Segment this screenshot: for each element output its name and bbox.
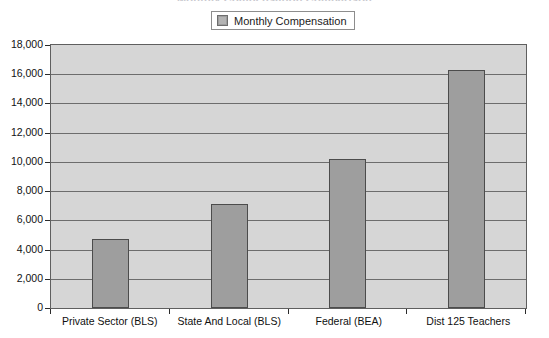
x-tick-mark <box>169 309 170 314</box>
y-tick-mark <box>45 45 50 46</box>
x-axis-label-1: State And Local (BLS) <box>170 315 290 327</box>
y-tick-label: 8,000 <box>17 184 43 196</box>
bar-state-and-local-bls[interactable] <box>211 204 248 308</box>
y-tick: 18,000 <box>0 45 50 46</box>
x-axis-ticks <box>50 309 528 314</box>
y-tick: 16,000 <box>0 74 50 75</box>
bar-slot <box>51 45 170 308</box>
legend-swatch-icon <box>217 15 228 26</box>
y-tick-label: 10,000 <box>11 155 43 167</box>
bar-slot <box>289 45 408 308</box>
y-tick-label: 2,000 <box>17 272 43 284</box>
bar-private-sector-bls[interactable] <box>92 239 129 308</box>
bar-slot <box>170 45 289 308</box>
chart-legend: Monthly Compensation <box>211 11 355 30</box>
y-tick: 8,000 <box>0 191 50 192</box>
y-axis: 02,0004,0006,0008,00010,00012,00014,0001… <box>0 44 50 310</box>
plot-area <box>50 44 527 309</box>
y-tick-mark <box>45 162 50 163</box>
y-tick-label: 12,000 <box>11 126 43 138</box>
x-axis-label-2: Federal (BEA) <box>289 315 409 327</box>
bar-slot <box>407 45 526 308</box>
x-tick-mark <box>288 309 289 314</box>
y-tick: 4,000 <box>0 250 50 251</box>
y-tick-mark <box>45 103 50 104</box>
x-tick-mark <box>406 309 407 314</box>
y-tick-label: 16,000 <box>11 67 43 79</box>
y-tick-mark <box>45 74 50 75</box>
y-tick: 6,000 <box>0 220 50 221</box>
legend-label-monthly-compensation: Monthly Compensation <box>234 15 347 27</box>
y-tick-label: 0 <box>37 301 43 313</box>
y-tick-mark <box>45 250 50 251</box>
y-tick-label: 14,000 <box>11 96 43 108</box>
y-tick: 14,000 <box>0 103 50 104</box>
y-tick: 10,000 <box>0 162 50 163</box>
bar-dist-125-teachers[interactable] <box>448 70 485 308</box>
y-tick-mark <box>45 191 50 192</box>
x-axis: Private Sector (BLS)State And Local (BLS… <box>50 309 528 338</box>
x-axis-label-3: Dist 125 Teachers <box>409 315 529 327</box>
chart-title: Monthly Compensation Comparison <box>0 0 549 1</box>
y-tick-mark <box>45 279 50 280</box>
x-axis-label-0: Private Sector (BLS) <box>50 315 170 327</box>
y-tick-mark <box>45 133 50 134</box>
y-tick: 0 <box>0 308 50 309</box>
y-tick-label: 6,000 <box>17 213 43 225</box>
x-axis-labels: Private Sector (BLS)State And Local (BLS… <box>50 315 528 327</box>
x-tick-mark <box>525 309 526 314</box>
x-tick-mark <box>50 309 51 314</box>
y-tick: 2,000 <box>0 279 50 280</box>
y-tick-mark <box>45 220 50 221</box>
bar-federal-bea[interactable] <box>329 159 366 308</box>
bar-series <box>51 45 526 308</box>
y-tick-label: 18,000 <box>11 38 43 50</box>
y-tick: 12,000 <box>0 133 50 134</box>
y-tick-label: 4,000 <box>17 243 43 255</box>
